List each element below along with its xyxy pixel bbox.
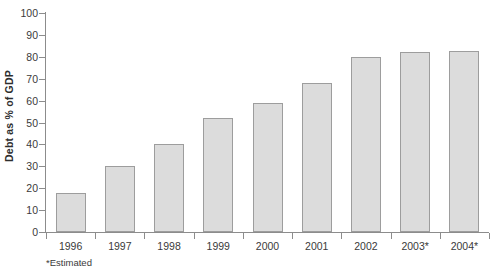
y-tick-label: 80 xyxy=(0,52,38,63)
x-tick-mark xyxy=(144,233,145,239)
bar xyxy=(105,166,135,232)
y-tick-mark xyxy=(39,101,45,102)
plot-area xyxy=(46,13,489,232)
y-tick-mark xyxy=(39,79,45,80)
bar xyxy=(351,57,381,232)
x-tick-label: 2000 xyxy=(256,241,279,253)
x-tick-label: 2001 xyxy=(305,241,328,253)
bar xyxy=(203,118,233,232)
x-tick-label: 1996 xyxy=(59,241,82,253)
y-tick-label: 90 xyxy=(0,30,38,41)
bar-chart: Debt as % of GDP 0102030405060708090100 … xyxy=(0,0,494,274)
y-tick-mark xyxy=(39,35,45,36)
x-tick-label: 1999 xyxy=(207,241,230,253)
bar xyxy=(56,193,86,232)
bar xyxy=(154,144,184,232)
y-tick-label: 70 xyxy=(0,73,38,84)
x-tick-mark xyxy=(489,233,490,239)
y-tick-label: 10 xyxy=(0,205,38,216)
x-tick-mark xyxy=(292,233,293,239)
footnote: *Estimated xyxy=(46,257,92,268)
y-tick-label: 100 xyxy=(0,8,38,19)
y-tick-mark xyxy=(39,210,45,211)
y-tick-mark xyxy=(39,188,45,189)
x-tick-mark xyxy=(391,233,392,239)
y-tick-mark xyxy=(39,232,45,233)
bar xyxy=(449,51,479,232)
y-tick-label: 30 xyxy=(0,161,38,172)
x-tick-label: 2004* xyxy=(451,241,478,253)
x-tick-label: 1997 xyxy=(108,241,131,253)
x-tick-mark xyxy=(440,233,441,239)
y-tick-label: 0 xyxy=(0,227,38,238)
x-tick-mark xyxy=(95,233,96,239)
y-tick-mark xyxy=(39,57,45,58)
x-tick-label: 2003* xyxy=(401,241,428,253)
bar xyxy=(400,52,430,232)
y-tick-label: 50 xyxy=(0,117,38,128)
x-tick-mark xyxy=(341,233,342,239)
y-tick-mark xyxy=(39,166,45,167)
y-tick-mark xyxy=(39,13,45,14)
x-axis-line xyxy=(45,232,489,233)
bar xyxy=(253,103,283,232)
y-tick-label: 20 xyxy=(0,183,38,194)
x-tick-mark xyxy=(194,233,195,239)
y-tick-mark xyxy=(39,123,45,124)
bar xyxy=(302,83,332,232)
x-tick-label: 2002 xyxy=(354,241,377,253)
y-tick-label: 40 xyxy=(0,139,38,150)
x-tick-mark xyxy=(243,233,244,239)
y-tick-mark xyxy=(39,144,45,145)
y-tick-label: 60 xyxy=(0,95,38,106)
x-tick-mark xyxy=(46,233,47,239)
x-tick-label: 1998 xyxy=(157,241,180,253)
